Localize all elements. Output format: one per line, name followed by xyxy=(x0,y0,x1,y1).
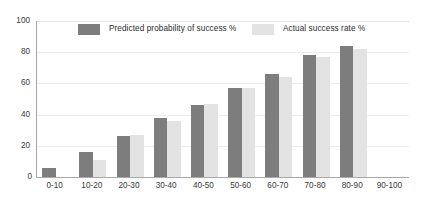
y-tick-60: 60 xyxy=(4,79,30,87)
bar-chart: Predicted probability of success % Actua… xyxy=(0,0,425,207)
y-tick-20: 20 xyxy=(4,142,30,150)
x-tick-30-40: 30-40 xyxy=(148,181,185,197)
bar-predicted-20-30 xyxy=(117,136,131,177)
bar-group xyxy=(372,21,409,177)
bar-group xyxy=(297,21,334,177)
x-tick-70-80: 70-80 xyxy=(296,181,333,197)
x-tick-60-70: 60-70 xyxy=(259,181,296,197)
bar-group xyxy=(186,21,223,177)
bar-actual-60-70 xyxy=(279,77,293,177)
bar-group xyxy=(335,21,372,177)
bar-group xyxy=(223,21,260,177)
bar-predicted-10-20 xyxy=(79,152,93,177)
y-axis-zero-label: 0 xyxy=(18,173,32,181)
bar-actual-30-40 xyxy=(167,121,181,177)
y-tick-80: 80 xyxy=(4,48,30,56)
bar-predicted-30-40 xyxy=(154,118,168,177)
x-axis-tick-labels: 0-1010-2020-3030-4040-5050-6060-7070-808… xyxy=(36,181,408,197)
x-tick-50-60: 50-60 xyxy=(222,181,259,197)
bar-predicted-50-60 xyxy=(228,88,242,177)
bar-actual-10-20 xyxy=(93,160,107,177)
bar-predicted-70-80 xyxy=(303,55,317,177)
x-tick-20-30: 20-30 xyxy=(110,181,147,197)
bar-predicted-0-10 xyxy=(42,168,56,177)
bar-actual-80-90 xyxy=(353,49,367,177)
plot-area xyxy=(36,21,409,178)
y-tick-100: 100 xyxy=(4,17,30,25)
bar-predicted-40-50 xyxy=(191,105,205,177)
x-tick-90-100: 90-100 xyxy=(371,181,408,197)
bar-predicted-60-70 xyxy=(265,74,279,177)
bar-predicted-80-90 xyxy=(340,46,354,177)
bar-group xyxy=(149,21,186,177)
x-tick-10-20: 10-20 xyxy=(73,181,110,197)
bar-groups xyxy=(37,21,409,177)
bar-group xyxy=(37,21,74,177)
bar-group xyxy=(111,21,148,177)
x-tick-80-90: 80-90 xyxy=(334,181,371,197)
x-tick-0-10: 0-10 xyxy=(36,181,73,197)
bar-actual-50-60 xyxy=(242,88,256,177)
bar-actual-40-50 xyxy=(204,104,218,177)
bar-group xyxy=(74,21,111,177)
bar-actual-70-80 xyxy=(316,57,330,177)
bar-group xyxy=(260,21,297,177)
y-tick-40: 40 xyxy=(4,111,30,119)
bar-actual-20-30 xyxy=(130,135,144,177)
x-tick-40-50: 40-50 xyxy=(185,181,222,197)
